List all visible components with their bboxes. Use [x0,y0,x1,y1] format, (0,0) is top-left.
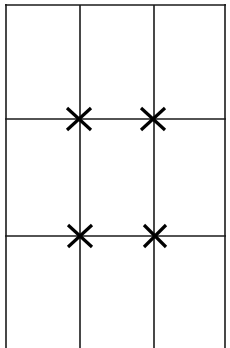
diagram-canvas [0,0,230,348]
grid-diagram [0,0,230,348]
canvas-background [0,0,230,348]
